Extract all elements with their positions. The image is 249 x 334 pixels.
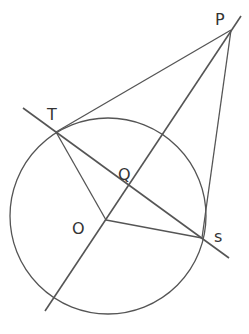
label-O: O xyxy=(72,219,85,238)
tangent-PT xyxy=(56,30,231,132)
tangent-PS xyxy=(202,30,231,238)
radius-OT xyxy=(56,132,106,220)
radius-OS xyxy=(106,220,202,238)
geometry-diagram: P T s Q O xyxy=(0,0,249,334)
label-P: P xyxy=(215,10,225,29)
label-Q: Q xyxy=(118,165,131,184)
label-T: T xyxy=(46,105,57,124)
label-S: s xyxy=(214,227,222,246)
